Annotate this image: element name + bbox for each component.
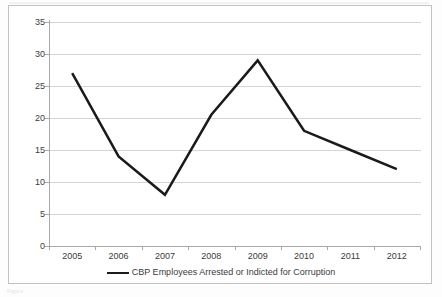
series-line-cbp-arrests — [72, 60, 397, 194]
scan-artifact-caption: Figure — [7, 288, 24, 294]
scanned-page: 05101520253035 2005200620072008200920102… — [0, 0, 442, 297]
scan-artifact-top-edge — [9, 2, 429, 4]
chart-legend: CBP Employees Arrested or Indicted for C… — [9, 268, 433, 277]
legend-item-label: CBP Employees Arrested or Indicted for C… — [132, 268, 335, 277]
legend-line-swatch — [107, 272, 129, 274]
chart-area: 05101520253035 2005200620072008200920102… — [8, 5, 432, 284]
data-series-layer — [9, 6, 433, 285]
